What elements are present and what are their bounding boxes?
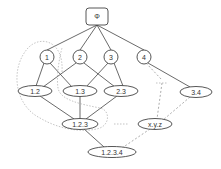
node-3-4-label: 3.4 [191, 89, 201, 96]
node-2-3-label: 2.3 [116, 88, 126, 95]
node-1-2-label: 1.2 [30, 88, 40, 95]
node-1-3-label: 1.3 [75, 88, 85, 95]
node-1-2-3-4-label: 1.2.3.4 [101, 149, 123, 156]
lattice-diagram: Φ 1 2 3 4 1.2 1.3 2.3 3.4 1.2.3 x.y.z 1.… [0, 0, 221, 169]
root-label: Φ [94, 13, 100, 20]
dashed-edges [122, 63, 190, 148]
node-2-label: 2 [78, 54, 82, 61]
node-1-2-3-label: 1.2.3 [72, 121, 88, 128]
node-4-label: 4 [142, 54, 146, 61]
lattice-svg: Φ 1 2 3 4 1.2 1.3 2.3 3.4 1.2.3 x.y.z 1.… [0, 0, 221, 169]
node-x-y-z-label: x.y.z [148, 121, 162, 129]
node-3-label: 3 [109, 54, 113, 61]
node-1-label: 1 [45, 54, 49, 61]
